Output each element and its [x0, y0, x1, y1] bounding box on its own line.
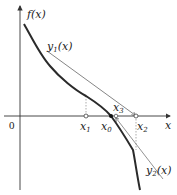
tangent-line-y1	[47, 51, 135, 115]
point-x1	[84, 114, 88, 118]
point-x0	[109, 114, 113, 118]
f-label: f(x)	[26, 8, 46, 21]
point-x3	[114, 114, 118, 118]
x3-label: x3	[113, 101, 124, 115]
x2-label: x2	[137, 120, 148, 134]
newton-method-diagram: f(x) 0 x y1(x) y2(x) x1 x0 x3 x2	[0, 0, 177, 195]
x1-label: x1	[80, 120, 91, 134]
point-x2	[134, 114, 138, 118]
origin-label: 0	[9, 119, 15, 131]
y2-label: y2(x)	[145, 164, 171, 178]
x0-label: x0	[101, 120, 112, 134]
x-axis-label: x	[165, 119, 172, 132]
y1-label: y1(x)	[46, 40, 72, 54]
